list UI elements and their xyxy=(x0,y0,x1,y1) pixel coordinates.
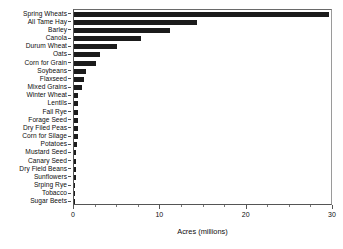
y-axis-label: Barley xyxy=(48,26,67,33)
y-axis-label: Fall Rye xyxy=(42,108,67,115)
y-axis-label: Srping Rye xyxy=(34,181,67,188)
bar xyxy=(74,175,76,180)
y-axis-tick xyxy=(68,119,71,120)
y-axis-label: Tobacco xyxy=(42,189,67,196)
bar-row xyxy=(74,101,331,107)
y-axis-tick xyxy=(68,127,71,128)
y-axis-tick xyxy=(68,185,71,186)
bar-row xyxy=(74,93,331,99)
bar-row xyxy=(74,166,331,172)
y-axis-tick xyxy=(68,152,71,153)
bar xyxy=(74,134,78,139)
y-axis-tick xyxy=(68,21,71,22)
y-axis-tick xyxy=(68,46,71,47)
bar xyxy=(74,44,117,49)
y-axis-label: Canola xyxy=(46,34,67,41)
bar-row xyxy=(74,150,331,156)
bar-row xyxy=(74,158,331,164)
bar xyxy=(74,150,76,155)
bar xyxy=(74,191,75,196)
bar xyxy=(74,110,78,115)
y-axis-label: Corn for Silage xyxy=(22,132,67,139)
x-axis-tick-minor xyxy=(138,205,139,207)
y-axis-tick xyxy=(68,62,71,63)
bar-chart: Spring WheatsAll Tame HayBarleyCanolaDur… xyxy=(0,0,343,249)
y-axis-label: Oats xyxy=(53,50,67,57)
bar xyxy=(74,183,75,188)
bar xyxy=(74,93,78,98)
y-axis-tick xyxy=(68,193,71,194)
bar-row xyxy=(74,68,331,74)
y-axis-label: Flaxseed xyxy=(40,75,67,82)
y-axis-tick xyxy=(68,38,71,39)
bar-row xyxy=(74,142,331,148)
bar xyxy=(74,159,76,164)
y-axis-category-labels: Spring WheatsAll Tame HayBarleyCanolaDur… xyxy=(0,9,71,205)
bar-row xyxy=(74,36,331,42)
bar-row xyxy=(74,134,331,140)
bar-row xyxy=(74,27,331,33)
bar xyxy=(74,36,141,41)
y-axis-label: Dry Filed Peas xyxy=(23,124,67,131)
y-axis-label: Potatoes xyxy=(41,140,67,147)
y-axis-tick xyxy=(68,78,71,79)
x-axis-tick-label: 10 xyxy=(155,210,163,219)
bar xyxy=(74,85,82,90)
x-axis-tick-minor xyxy=(224,205,225,207)
bar xyxy=(74,77,84,82)
bar-row xyxy=(74,19,331,25)
x-axis-tick-label: 0 xyxy=(71,210,75,219)
x-axis-tick-minor xyxy=(310,205,311,207)
y-axis-tick xyxy=(68,201,71,202)
y-axis-label: Canary Seed xyxy=(28,157,67,164)
x-axis-tick-major xyxy=(159,205,160,209)
y-axis-tick xyxy=(68,144,71,145)
y-axis-tick xyxy=(68,29,71,30)
bar xyxy=(74,167,76,172)
x-axis-tick-major xyxy=(73,205,74,209)
bar-row xyxy=(74,44,331,50)
y-axis-label: Mustard Seed xyxy=(25,148,67,155)
bar-row xyxy=(74,191,331,197)
y-axis-tick xyxy=(68,160,71,161)
x-axis-tick-major xyxy=(246,205,247,209)
y-axis-tick xyxy=(68,168,71,169)
y-axis-label: Corn for Grain xyxy=(25,59,67,66)
bar xyxy=(74,69,86,74)
y-axis-tick xyxy=(68,54,71,55)
y-axis-tick xyxy=(68,111,71,112)
y-axis-label: Durum Wheat xyxy=(26,42,67,49)
x-axis-tick-labels: 0102030 xyxy=(73,210,332,221)
bar xyxy=(74,28,170,33)
y-axis-label: Soybeans xyxy=(37,67,67,74)
x-axis-tick-label: 20 xyxy=(242,210,250,219)
bar xyxy=(74,118,78,123)
y-axis-label: Mixed Grains xyxy=(28,83,67,90)
bar-row xyxy=(74,60,331,66)
x-axis-tick-minor xyxy=(203,205,204,207)
bar-row xyxy=(74,117,331,123)
y-axis-label: Winter Wheat xyxy=(26,91,67,98)
bar-row xyxy=(74,125,331,131)
y-axis-label: Forage Seed xyxy=(28,116,67,123)
y-axis-tick xyxy=(68,13,71,14)
bar-row xyxy=(74,52,331,58)
y-axis-tick xyxy=(68,103,71,104)
bar-row xyxy=(74,174,331,180)
bar xyxy=(74,126,78,131)
bar-series xyxy=(74,10,331,204)
x-axis-tick-minor xyxy=(267,205,268,207)
x-axis-tick-major xyxy=(332,205,333,209)
bar-row xyxy=(74,76,331,82)
y-axis-label: Spring Wheats xyxy=(23,10,67,17)
x-axis-title: Acres (millions) xyxy=(73,227,332,236)
bar xyxy=(74,20,197,25)
y-axis-tick xyxy=(68,136,71,137)
x-axis-tick-minor xyxy=(289,205,290,207)
bar-row xyxy=(74,199,331,205)
y-axis-label: All Tame Hay xyxy=(28,18,67,25)
y-axis-tick xyxy=(68,176,71,177)
bar-row xyxy=(74,85,331,91)
chart-title xyxy=(0,0,343,6)
bar xyxy=(74,61,96,66)
